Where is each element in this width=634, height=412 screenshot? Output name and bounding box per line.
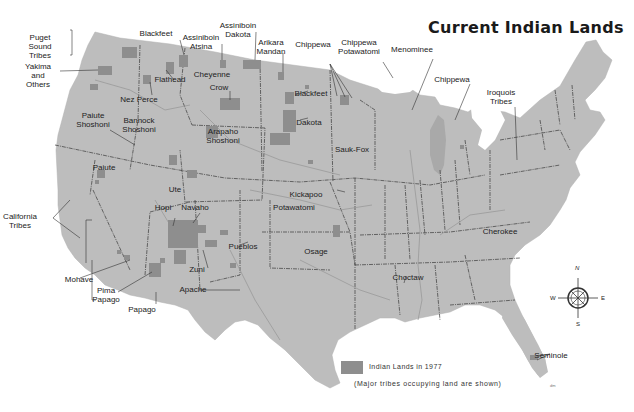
tribe-label-assiniboin-atsina: Assiniboin Atsina [183, 33, 219, 51]
tribe-label-california-tribes: California Tribes [3, 212, 37, 230]
tribe-label-ute: Ute [169, 185, 181, 194]
tribe-label-cherokee: Cherokee [483, 227, 518, 236]
tribe-label-sauk-fox: Sauk-Fox [335, 145, 369, 154]
compass-rose [558, 278, 598, 318]
tribe-label-iroquois-tribes: Iroquois Tribes [487, 88, 515, 106]
legend-note: (Major tribes occupying land are shown) [354, 380, 502, 387]
tribe-label-kickapoo: Kickapoo [290, 190, 323, 199]
tribe-label-crow: Crow [210, 83, 229, 92]
legend-label: Indian Lands in 1977 [369, 363, 442, 370]
tribe-label-seminole: Seminole [534, 351, 567, 360]
tribe-label-nez-perce: Nez Perce [120, 95, 157, 104]
tribe-label-choctaw: Choctaw [392, 273, 423, 282]
tribe-label-arapaho-shoshoni: Arapaho Shoshoni [206, 127, 239, 145]
tribe-label-pima-papago: Pima Papago [92, 286, 120, 304]
tribe-label-menominee: Menominee [391, 45, 433, 54]
compass-east-label: E [601, 294, 605, 303]
tribe-label-flathead: Flathead [154, 75, 185, 84]
tribe-label-mohave: Mohave [65, 275, 93, 284]
tribe-label-arikara-mandan: Arikara Mandan [257, 38, 286, 56]
tribe-label-apache: Apache [179, 285, 206, 294]
map-title: Current Indian Lands [428, 18, 624, 37]
tribe-label-osage: Osage [304, 247, 328, 256]
tribe-label-bannock-shoshoni: Bannock Shoshoni [122, 116, 155, 134]
tribe-label-dakota: Dakota [296, 118, 321, 127]
tribe-label-cheyenne: Cheyenne [194, 70, 230, 79]
tribe-label-blackfeet-mt: Blackfeet [140, 29, 173, 38]
tribe-label-blackfeet-sd: Blackfeet [295, 89, 328, 98]
tribe-label-hopi: Hopi [155, 203, 171, 212]
tribe-label-potawatomi: Potawatomi [273, 203, 315, 212]
compass-north-label: N [575, 264, 579, 273]
compass-south-label: S [576, 320, 580, 329]
tribe-label-paiute: Paiute [93, 163, 116, 172]
tribe-label-zuni: Zuni [189, 265, 205, 274]
tribe-label-papago: Papago [128, 305, 156, 314]
tribe-label-yakima-and-others: Yakima and Others [25, 62, 51, 89]
florida [502, 300, 548, 378]
tribe-label-chippewa-mi: Chippewa [434, 75, 470, 84]
artist-credit: dm [550, 383, 556, 388]
tribe-label-assiniboin-dakota: Assiniboin Dakota [220, 21, 256, 39]
tribe-label-puget-sound-tribes: Puget Sound Tribes [28, 33, 51, 60]
tribe-label-pueblos: Pueblos [229, 242, 258, 251]
tribe-label-navaho: Navaho [181, 203, 209, 212]
compass-west-label: W [550, 294, 556, 303]
legend-swatch [341, 361, 363, 374]
tribe-label-chippewa-mn: Chippewa [295, 40, 331, 49]
tribe-label-paiute-shoshoni: Paiute Shoshoni [76, 111, 109, 129]
tribe-label-chippewa-potawatomi: Chippewa Potawatomi [338, 38, 380, 56]
